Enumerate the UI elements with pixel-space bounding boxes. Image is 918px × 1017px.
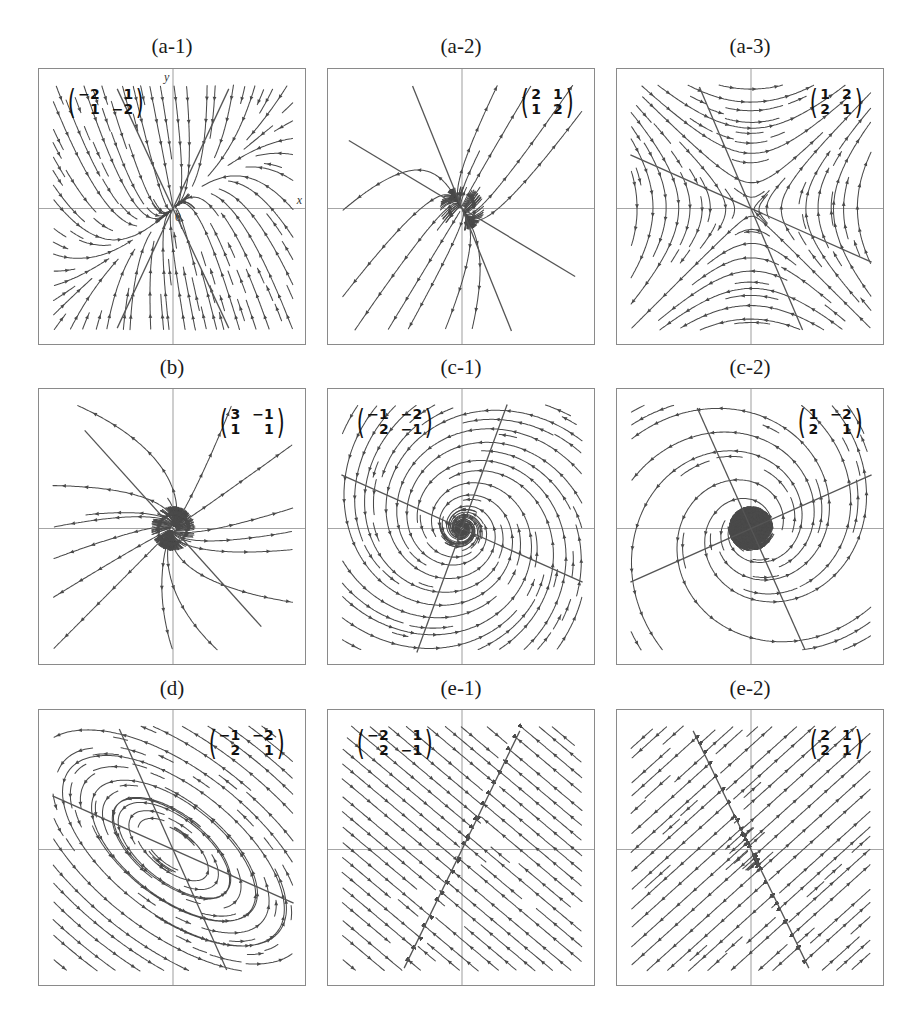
panel-title-a1: (a-1) <box>38 34 306 58</box>
matrix-entries: 3−111 <box>231 407 274 437</box>
right-paren: ) <box>425 726 433 760</box>
system-matrix-label: (−1−221) <box>206 726 288 760</box>
system-matrix-label: (−212−1) <box>354 726 436 760</box>
phase-portrait-e1: (−212−1) <box>327 709 595 986</box>
right-paren: ) <box>276 405 284 439</box>
system-matrix-label: (−211−2) <box>65 85 147 119</box>
phase-portrait-b: (3−111) <box>38 388 306 665</box>
panel-title-a3: (a-3) <box>616 34 884 58</box>
right-paren: ) <box>854 405 862 439</box>
right-paren: ) <box>854 85 862 119</box>
right-paren: ) <box>565 85 573 119</box>
matrix-entry-00: 2 <box>531 87 541 102</box>
phase-portrait-c1: (−1−22−1) <box>327 388 595 665</box>
left-paren: ( <box>810 85 818 119</box>
system-matrix-label: (3−111) <box>217 405 287 439</box>
matrix-entry-10: 2 <box>367 743 388 758</box>
matrix-entry-11: 1 <box>252 422 273 437</box>
matrix-entry-01: −1 <box>252 407 273 422</box>
matrix-entry-11: −1 <box>401 743 422 758</box>
matrix-entry-01: 1 <box>112 87 133 102</box>
matrix-entry-10: 2 <box>809 422 819 437</box>
left-paren: ( <box>357 405 365 439</box>
left-paren: ( <box>810 726 818 760</box>
matrix-entry-10: 1 <box>78 102 99 117</box>
matrix-entry-11: 1 <box>842 743 852 758</box>
panel-title-e1: (e-1) <box>327 676 595 700</box>
matrix-entry-00: −1 <box>367 407 388 422</box>
phase-portrait-e2: (2121) <box>616 709 884 986</box>
y-axis-label: y <box>164 70 169 85</box>
panel-title-c1: (c-1) <box>327 355 595 379</box>
right-paren: ) <box>276 726 284 760</box>
system-matrix-label: (2121) <box>807 726 865 760</box>
left-paren: ( <box>220 405 228 439</box>
matrix-entries: 2112 <box>531 87 563 117</box>
matrix-entry-00: 3 <box>231 407 241 422</box>
matrix-entries: −211−2 <box>78 87 133 117</box>
right-paren: ) <box>854 726 862 760</box>
right-paren: ) <box>425 405 433 439</box>
phase-portrait-c2: (1−221) <box>616 388 884 665</box>
matrix-entry-10: 2 <box>219 743 240 758</box>
matrix-entries: −212−1 <box>367 728 422 758</box>
matrix-entry-01: 1 <box>401 728 422 743</box>
panel-title-d: (d) <box>38 676 306 700</box>
phase-portrait-a3: (1221) <box>616 68 884 345</box>
system-matrix-label: (−1−22−1) <box>354 405 436 439</box>
panel-title-b: (b) <box>38 355 306 379</box>
matrix-entry-11: 1 <box>830 422 851 437</box>
matrix-entries: 1−221 <box>809 407 852 437</box>
left-paren: ( <box>521 85 529 119</box>
flow-direction-arrows <box>353 86 572 327</box>
left-paren: ( <box>357 726 365 760</box>
panel-title-c2: (c-2) <box>616 355 884 379</box>
matrix-entry-01: 1 <box>842 728 852 743</box>
matrix-entry-10: 2 <box>367 422 388 437</box>
matrix-entries: −1−22−1 <box>367 407 422 437</box>
right-paren: ) <box>136 85 144 119</box>
matrix-entry-11: −1 <box>401 422 422 437</box>
matrix-entry-00: 1 <box>820 87 830 102</box>
matrix-entries: 1221 <box>820 87 852 117</box>
system-matrix-label: (1221) <box>807 85 865 119</box>
left-paren: ( <box>68 85 76 119</box>
matrix-entry-11: −2 <box>112 102 133 117</box>
phase-portrait-a1: (−211−2)yx0 <box>38 68 306 345</box>
system-matrix-label: (1−221) <box>795 405 865 439</box>
matrix-entry-00: −2 <box>367 728 388 743</box>
matrix-entry-00: 1 <box>809 407 819 422</box>
matrix-entry-00: −2 <box>78 87 99 102</box>
matrix-entry-01: −2 <box>830 407 851 422</box>
matrix-entry-10: 1 <box>531 102 541 117</box>
phase-portrait-a2: (2112) <box>327 68 595 345</box>
panel-title-a2: (a-2) <box>327 34 595 58</box>
panel-title-e2: (e-2) <box>616 676 884 700</box>
matrix-entry-10: 2 <box>820 743 830 758</box>
matrix-entry-00: −1 <box>219 728 240 743</box>
origin-label: 0 <box>175 210 181 225</box>
matrix-entry-00: 2 <box>820 728 830 743</box>
left-paren: ( <box>798 405 806 439</box>
matrix-entry-10: 1 <box>231 422 241 437</box>
matrix-entry-01: −2 <box>252 728 273 743</box>
phase-portrait-d: (−1−221) <box>38 709 306 986</box>
matrix-entry-01: 1 <box>553 87 563 102</box>
matrix-entry-10: 2 <box>820 102 830 117</box>
left-paren: ( <box>208 726 216 760</box>
matrix-entry-11: 1 <box>842 102 852 117</box>
matrix-entry-11: 2 <box>553 102 563 117</box>
matrix-entries: −1−221 <box>219 728 274 758</box>
matrix-entries: 2121 <box>820 728 852 758</box>
x-axis-label: x <box>297 193 302 208</box>
matrix-entry-11: 1 <box>252 743 273 758</box>
matrix-entry-01: 2 <box>842 87 852 102</box>
system-matrix-label: (2112) <box>518 85 576 119</box>
matrix-entry-01: −2 <box>401 407 422 422</box>
